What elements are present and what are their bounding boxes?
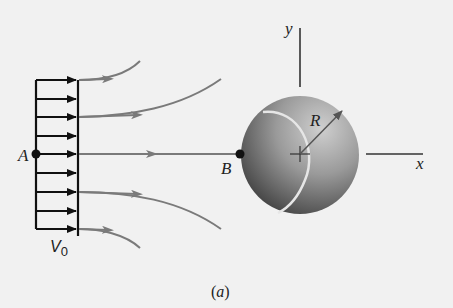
streamline-top-outer xyxy=(79,61,140,80)
velocity-symbol: V xyxy=(50,238,61,255)
radius-label: R xyxy=(310,112,320,129)
y-axis-label: y xyxy=(285,20,293,37)
streamline-bottom-outer xyxy=(79,229,140,248)
flow-diagram xyxy=(0,0,453,308)
figure-caption: (a) xyxy=(211,284,230,300)
point-a-marker xyxy=(32,150,41,159)
streamline-bottom-inner xyxy=(79,192,221,229)
velocity-subscript: 0 xyxy=(61,244,68,259)
streamlines xyxy=(79,61,240,248)
sphere xyxy=(241,96,359,214)
streamline-top-inner xyxy=(79,79,221,117)
velocity-profile xyxy=(36,80,78,236)
velocity-label: V0 xyxy=(50,239,68,258)
point-b-marker xyxy=(236,150,245,159)
x-axis-label: x xyxy=(416,155,424,172)
point-a-label: A xyxy=(18,147,28,164)
point-b-label: B xyxy=(221,160,231,177)
